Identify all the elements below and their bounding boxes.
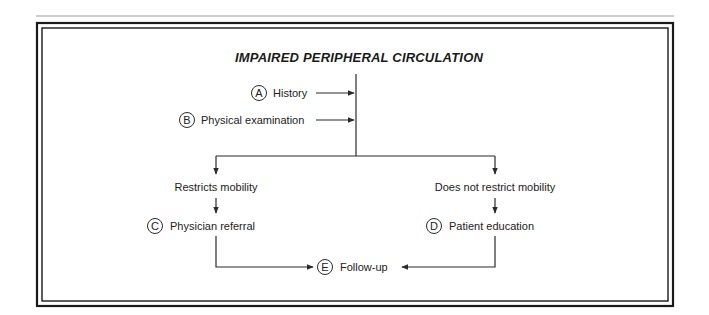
physician-referral-node: C Physician referral [148,219,255,234]
restricts-mobility-label: Restricts mobility [174,181,258,193]
follow-up-label: Follow-up [340,261,388,273]
letter-e: E [321,261,328,273]
does-not-restrict-mobility-label: Does not restrict mobility [435,181,556,193]
physical-examination-label: Physical examination [201,114,304,126]
flowchart-canvas: IMPAIRED PERIPHERAL CIRCULATION A Histor… [0,0,709,315]
input-history: A History [252,86,355,101]
letter-b: B [183,114,190,126]
education-to-followup-arrow [402,236,495,267]
follow-up-node: E Follow-up [318,260,388,275]
input-physical-examination: B Physical examination [180,113,355,128]
letter-a: A [255,87,263,99]
letter-d: D [430,220,438,232]
letter-c: C [151,220,159,232]
patient-education-node: D Patient education [427,219,535,234]
physician-referral-label: Physician referral [170,220,255,232]
patient-education-label: Patient education [449,220,534,232]
diagram-title: IMPAIRED PERIPHERAL CIRCULATION [235,50,484,65]
history-label: History [273,87,308,99]
referral-to-followup-arrow [216,236,313,267]
